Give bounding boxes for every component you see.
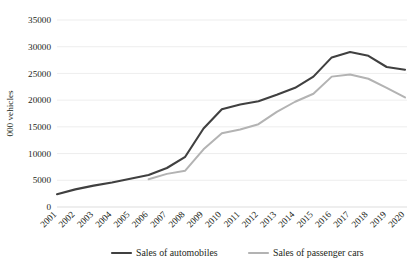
line-chart: 05000100001500020000250003000035000 2001…: [0, 0, 412, 270]
y-axis-title: 000 vehicles: [5, 90, 15, 137]
y-axis-tick-label: 25000: [28, 69, 51, 79]
y-axis-tick-label: 35000: [28, 15, 51, 25]
x-axis-tick-label: 2010: [203, 209, 223, 229]
x-axis-tick-label: 2016: [313, 209, 333, 229]
y-axis-tick-labels: 05000100001500020000250003000035000: [28, 15, 51, 212]
x-axis-tick-label: 2020: [386, 209, 406, 229]
legend-label-0: Sales of automobiles: [136, 247, 218, 258]
y-axis-title-text: 000 vehicles: [5, 90, 15, 137]
x-axis-tick-label: 2007: [148, 209, 168, 229]
chart-legend: Sales of automobilesSales of passenger c…: [112, 247, 364, 258]
y-axis-tick-label: 10000: [28, 149, 51, 159]
y-axis-tick-label: 15000: [28, 122, 51, 132]
x-axis-tick-labels: 2001200220032004200520062007200820092010…: [38, 209, 406, 229]
x-axis-tick-label: 2006: [130, 209, 150, 229]
y-axis-tick-label: 5000: [33, 175, 52, 185]
x-axis-tick-label: 2018: [350, 209, 370, 229]
x-axis-tick-label: 2002: [57, 209, 77, 229]
x-axis-tick-label: 2008: [167, 209, 187, 229]
y-axis-tick-label: 30000: [28, 42, 51, 52]
y-axis-tick-label: 20000: [28, 95, 51, 105]
x-axis-tick-label: 2001: [38, 209, 58, 229]
chart-canvas: 05000100001500020000250003000035000 2001…: [0, 0, 412, 270]
gridlines: [57, 20, 407, 207]
x-axis-tick-label: 2015: [295, 209, 315, 229]
x-axis-tick-label: 2009: [185, 209, 205, 229]
x-axis-tick-label: 2005: [112, 209, 132, 229]
x-axis-tick-label: 2011: [222, 209, 242, 229]
x-axis-tick-label: 2003: [75, 209, 95, 229]
x-axis-tick-label: 2019: [368, 209, 388, 229]
legend-label-1: Sales of passenger cars: [273, 247, 364, 258]
x-axis-tick-label: 2013: [258, 209, 278, 229]
x-axis-tick-label: 2004: [93, 209, 113, 229]
x-axis-tick-label: 2014: [276, 209, 296, 229]
x-axis-tick-label: 2017: [331, 209, 351, 229]
x-axis-tick-label: 2012: [240, 209, 260, 229]
